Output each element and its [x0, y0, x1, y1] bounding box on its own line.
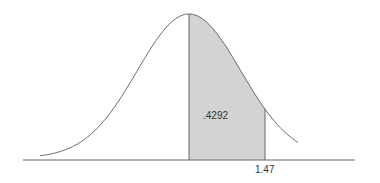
normal-curve-chart [0, 0, 380, 183]
shaded-area [189, 14, 265, 160]
z-label: 1.47 [255, 164, 274, 175]
area-label: .4292 [203, 110, 228, 121]
